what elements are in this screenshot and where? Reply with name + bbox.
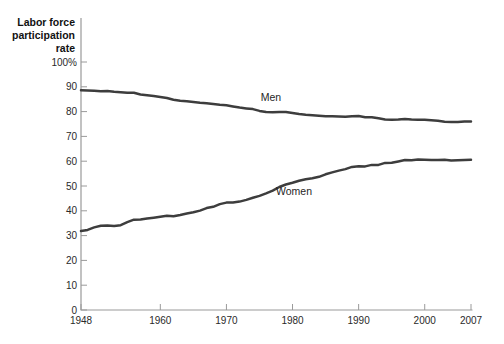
x-tick-label: 1980 <box>281 315 304 326</box>
y-tick-label: 60 <box>66 156 78 167</box>
y-axis-title: Labor force participation rate <box>12 16 75 54</box>
y-tick-label: 40 <box>66 205 78 216</box>
labor-force-participation-chart: Labor force participation rate 010203040… <box>0 0 504 344</box>
x-tick-label: 2007 <box>460 315 483 326</box>
x-tick-label: 1990 <box>348 315 371 326</box>
axis-lines <box>81 18 473 310</box>
y-axis-ticks: 0102030405060708090100% <box>51 57 87 316</box>
y-tick-label: 0 <box>71 305 77 316</box>
y-axis-title-line-3: rate <box>56 42 75 54</box>
y-tick-label: 20 <box>66 255 78 266</box>
y-tick-label: 50 <box>66 181 78 192</box>
x-tick-label: 1960 <box>149 315 172 326</box>
x-tick-label: 2000 <box>414 315 437 326</box>
series-label-men: Men <box>261 91 282 103</box>
y-tick-label: 70 <box>66 131 78 142</box>
chart-canvas: Labor force participation rate 010203040… <box>0 0 504 344</box>
y-tick-label: 100% <box>51 57 77 68</box>
y-tick-label: 30 <box>66 230 78 241</box>
x-tick-label: 1970 <box>215 315 238 326</box>
series-label-women: Women <box>276 185 312 197</box>
y-tick-label: 80 <box>66 106 78 117</box>
y-axis-title-line-2: participation <box>12 29 75 41</box>
data-series <box>81 90 471 231</box>
y-tick-label: 90 <box>66 81 78 92</box>
y-tick-label: 10 <box>66 280 78 291</box>
axes <box>81 18 473 310</box>
y-axis-title-line-1: Labor force <box>17 16 75 28</box>
x-tick-label: 1948 <box>70 315 93 326</box>
x-axis-ticks: 1948196019701980199020002007 <box>70 304 483 326</box>
series-annotations: MenWomen <box>261 91 312 197</box>
